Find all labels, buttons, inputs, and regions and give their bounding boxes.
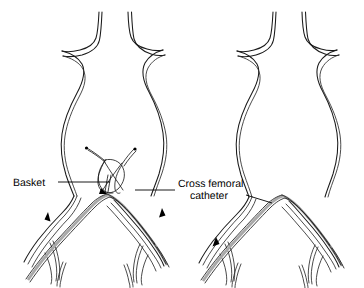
medical-illustration: Basket Cross femoral catheter — [0, 0, 364, 288]
cross-femoral-label-line2: catheter — [190, 190, 228, 202]
cross-femoral-label-line1: Cross femoral — [178, 178, 243, 190]
basket-wire-tip-left — [85, 146, 88, 149]
figure-root: Basket Cross femoral catheter — [0, 0, 364, 288]
basket-label: Basket — [13, 177, 45, 189]
basket-wire-tip-right — [133, 147, 136, 150]
